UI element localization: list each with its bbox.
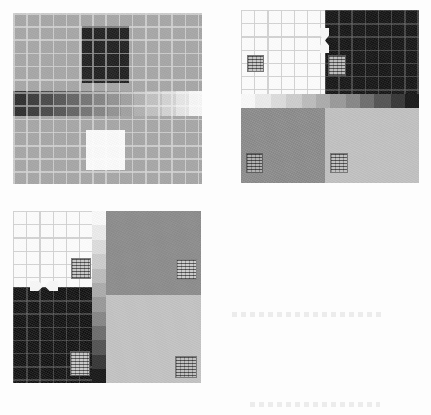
- panel-c: (c): [13, 13, 202, 184]
- scan-artifact: [250, 402, 380, 407]
- chip-texture: [248, 56, 263, 71]
- panel-d-texture-chip-top-right: [328, 55, 346, 76]
- figure-page: (c): [0, 0, 431, 415]
- panel-d-texture-chip-top-left: [247, 55, 264, 72]
- panel-d-gradient-band: [241, 94, 419, 108]
- chip-texture: [331, 154, 347, 172]
- panel-e-texture-chip-bottom-left: [70, 351, 90, 376]
- texture-noise: [92, 211, 106, 383]
- chip-texture: [329, 56, 345, 75]
- panel-e-texture-chip-top-right: [176, 259, 197, 280]
- texture-noise: [82, 26, 129, 83]
- panel-e: (e): [13, 211, 201, 383]
- chip-texture: [71, 352, 89, 375]
- panel-e-image: [13, 211, 201, 383]
- panel-c-white-square: [86, 130, 125, 170]
- panel-d-image: [241, 10, 419, 183]
- panel-d: (d): [241, 10, 419, 183]
- chip-texture: [176, 357, 196, 377]
- chip-texture: [177, 260, 196, 279]
- panel-d-texture-chip-bottom-right: [330, 153, 348, 173]
- panel-e-quadrant-top-right: [106, 211, 201, 295]
- panel-d-texture-chip-bottom-left: [246, 153, 263, 173]
- panel-c-dark-square: [82, 26, 129, 83]
- panel-c-image: [13, 13, 202, 184]
- chip-texture: [247, 154, 262, 172]
- texture-noise: [241, 94, 419, 108]
- texture-noise: [106, 211, 201, 295]
- texture-noise: [13, 91, 202, 116]
- scan-artifact: [232, 312, 382, 317]
- panel-e-texture-chip-top-left: [71, 258, 91, 279]
- chip-texture: [72, 259, 90, 278]
- panel-e-gradient-band: [92, 211, 106, 383]
- panel-c-gradient-band: [13, 91, 202, 116]
- panel-e-texture-chip-bottom-right: [175, 356, 197, 378]
